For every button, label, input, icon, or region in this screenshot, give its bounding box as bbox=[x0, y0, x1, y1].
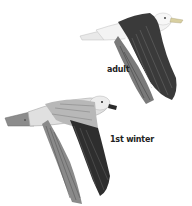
label-first-winter: 1st winter bbox=[110, 135, 154, 144]
gull-illustration bbox=[0, 0, 192, 206]
first-winter-gull bbox=[5, 96, 117, 204]
label-adult: adult bbox=[107, 65, 129, 74]
adult-gull bbox=[80, 13, 183, 104]
